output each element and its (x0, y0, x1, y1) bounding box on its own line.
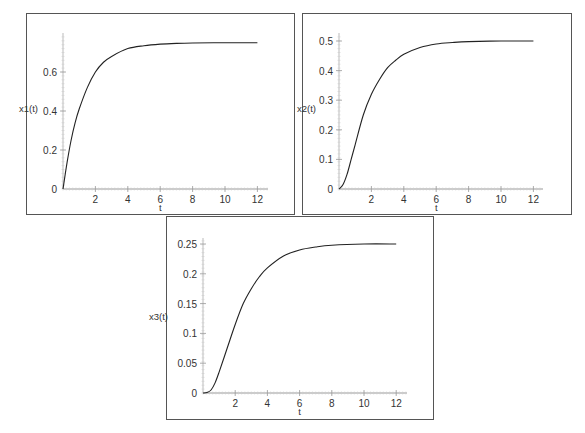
y-tick-label: 0 (191, 388, 197, 399)
y-tick-label: 0.1 (183, 328, 197, 339)
x-tick-label: 4 (265, 398, 271, 409)
y-tick-label: 0.15 (178, 299, 198, 310)
y-tick-label: 0.05 (178, 358, 198, 369)
x-axis-label: t (298, 406, 301, 417)
chart-x3: 00.050.10.150.20.2524681012tx3(t) (0, 0, 585, 433)
x-tick-label: 8 (329, 398, 335, 409)
x-tick-label: 12 (391, 398, 403, 409)
y-tick-label: 0.2 (183, 269, 197, 280)
x-tick-label: 10 (358, 398, 370, 409)
y-tick-label: 0.25 (178, 239, 198, 250)
x-tick-label: 2 (232, 398, 238, 409)
y-axis-label: x3(t) (149, 311, 168, 322)
series-line (203, 244, 396, 393)
